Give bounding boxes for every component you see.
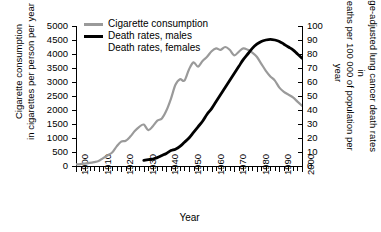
x-axis-tick	[234, 167, 235, 172]
right-axis-tick-label: 40	[307, 105, 333, 115]
right-axis-title-line2: deaths per 100 000 of population per yea…	[333, 0, 356, 156]
x-axis-minor-tick	[297, 167, 298, 171]
left-axis-tick-label: 4000	[34, 49, 68, 59]
left-axis-title: Cigarette consumption in cigarettes per …	[13, 0, 36, 147]
left-axis-tick-label: 2000	[34, 105, 68, 115]
x-axis-tick	[76, 167, 77, 172]
x-axis-tick	[212, 167, 213, 172]
left-axis-tick-label: 0	[34, 161, 68, 171]
right-axis-tick-label: 100	[307, 21, 333, 31]
legend-label-death-rates-males: Death rates, males	[108, 30, 192, 42]
left-axis-tick-label: 2500	[34, 91, 68, 101]
x-axis-minor-tick	[248, 167, 249, 171]
x-axis-minor-tick	[94, 167, 95, 171]
right-axis-tick-label: 90	[307, 35, 333, 45]
chart-figure: Cigarette consumption in cigarettes per …	[0, 0, 381, 232]
left-axis-title-line1: Cigarette consumption	[13, 0, 25, 147]
left-axis-tick-label: 3500	[34, 63, 68, 73]
legend-item-death-rates-females: Death rates, females	[84, 42, 208, 54]
left-axis-tick-label: 500	[34, 147, 68, 157]
x-axis-minor-tick	[230, 167, 231, 171]
legend-label-death-rates-females: Death rates, females	[108, 42, 200, 54]
left-axis-tick-label: 5000	[34, 21, 68, 31]
x-axis-minor-tick	[90, 167, 91, 171]
legend-item-death-rates-males: Death rates, males	[84, 30, 208, 42]
right-axis-line	[302, 26, 303, 167]
series-line-death-rates-males	[144, 39, 302, 160]
x-axis-minor-tick	[139, 167, 140, 171]
legend-swatch-none-icon	[84, 42, 103, 54]
legend: Cigarette consumption Death rates, males…	[84, 18, 208, 54]
x-axis-minor-tick	[117, 167, 118, 171]
x-axis-minor-tick	[135, 167, 136, 171]
right-axis-tick-label: 70	[307, 63, 333, 73]
x-axis-tick	[279, 167, 280, 172]
left-axis-tick-label: 1500	[34, 119, 68, 129]
x-axis-minor-tick	[162, 167, 163, 171]
x-axis-minor-tick	[184, 167, 185, 171]
series-line-cigarette-consumption	[76, 47, 302, 164]
x-axis-tick	[257, 167, 258, 172]
x-axis-minor-tick	[252, 167, 253, 171]
right-axis-title-line1: Age-adjusted lung cancer death rates in	[356, 0, 379, 156]
x-axis-tick-label: 2000	[306, 154, 316, 175]
x-axis-tick	[166, 167, 167, 172]
left-axis-tick-label: 1000	[34, 133, 68, 143]
left-axis-tick-label: 3000	[34, 77, 68, 87]
right-axis-tick-label: 20	[307, 133, 333, 143]
x-axis-tick	[189, 167, 190, 172]
x-axis-title: Year	[76, 212, 303, 223]
x-axis-tick	[302, 167, 303, 172]
right-axis-tick-label: 50	[307, 91, 333, 101]
legend-swatch-black-line-icon	[84, 30, 103, 42]
x-axis-minor-tick	[293, 167, 294, 171]
legend-swatch-gray-line-icon	[84, 18, 103, 30]
x-axis-minor-tick	[207, 167, 208, 171]
right-axis-tick-label: 30	[307, 119, 333, 129]
right-axis-title: Age-adjusted lung cancer death rates in …	[333, 0, 379, 156]
x-axis-tick	[121, 167, 122, 172]
x-axis-tick	[144, 167, 145, 172]
x-axis-tick	[99, 167, 100, 172]
right-axis-tick-label: 80	[307, 49, 333, 59]
legend-label-cigarette-consumption: Cigarette consumption	[108, 18, 208, 30]
right-axis-tick-label: 60	[307, 77, 333, 87]
x-axis-minor-tick	[203, 167, 204, 171]
x-axis-minor-tick	[275, 167, 276, 171]
legend-item-cigarette-consumption: Cigarette consumption	[84, 18, 208, 30]
x-axis-minor-tick	[180, 167, 181, 171]
left-axis-tick-label: 4500	[34, 35, 68, 45]
